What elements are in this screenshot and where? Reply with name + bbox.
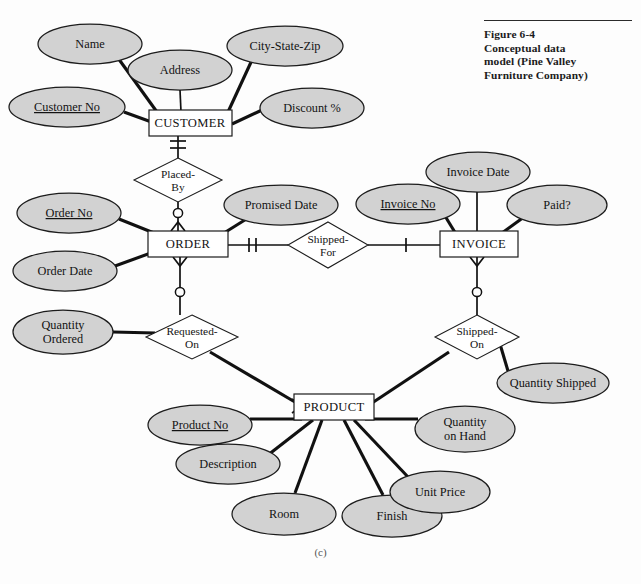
entity-product[interactable]: PRODUCT [294,394,374,420]
caption-line-3: Furniture Company) [484,69,632,83]
attribute-label: Name [75,37,105,51]
attribute-label: Order Date [38,264,94,278]
link-description-product [268,420,313,455]
entity-label: CUSTOMER [154,116,225,130]
cardinality-optional-circle [173,208,182,217]
attribute-node-name[interactable]: Name [38,24,142,64]
relationship-diamond [146,315,238,359]
attribute-node-quantity-on-hand[interactable]: Quantity on Hand [415,406,515,452]
attribute-node-promised-date[interactable]: Promised Date [224,185,338,225]
entity-order[interactable]: ORDER [148,231,228,257]
attribute-label-line2: on Hand [444,429,486,443]
attribute-node-quantity-ordered[interactable]: Quantity Ordered [13,310,113,354]
figure-number: Figure 6-4 [484,28,632,42]
attribute-label-line2: Ordered [43,332,83,346]
attribute-node-city-state-zip[interactable]: City-State-Zip [227,26,343,66]
caption-text: Figure 6-4 Conceptual data model (Pine V… [484,28,632,82]
attribute-node-unit-price[interactable]: Unit Price [390,471,490,513]
attribute-label-key: Invoice No [381,197,436,211]
caption-line-1: Conceptual data [484,42,632,56]
link-discount-customer [232,110,262,124]
relationship-diamond [134,158,222,202]
link-quantityordered-requestedon [113,332,155,333]
attribute-node-discount-percent[interactable]: Discount % [260,88,364,128]
subfigure-label: (c) [0,546,641,558]
entity-label: PRODUCT [303,400,364,414]
relationship-label-line2: By [171,181,185,193]
relationship-label-line1: Placed- [161,168,195,180]
attribute-label: Discount % [283,101,341,115]
link-address-customer [180,90,181,112]
attribute-node-customer-no[interactable]: Customer No [9,87,125,127]
attribute-node-order-no[interactable]: Order No [17,193,121,233]
attribute-node-invoice-date[interactable]: Invoice Date [426,152,530,192]
cardinality-optional-circle [175,287,184,296]
relationship-label-line1: Requested- [166,325,217,337]
relationship-placed-by[interactable]: Placed- By [134,158,222,202]
attribute-node-address[interactable]: Address [128,50,232,90]
relationship-label-line1: Shipped- [456,325,497,337]
attribute-label: Finish [377,509,408,523]
entity-invoice[interactable]: INVOICE [440,231,518,257]
relationship-label-line2: On [185,338,199,350]
entity-label: ORDER [166,237,211,251]
attribute-node-description[interactable]: Description [176,444,280,484]
attribute-label: Paid? [543,198,570,212]
relationship-shipped-for[interactable]: Shipped- For [288,222,368,268]
relationship-label-line1: Shipped- [307,233,348,245]
cardinality-optional-circle [472,287,481,296]
caption-rule [484,20,632,21]
attribute-node-product-no[interactable]: Product No [148,405,252,445]
line-shippedon-product [369,352,449,405]
attribute-node-paid[interactable]: Paid? [507,185,607,225]
attribute-label-line1: Quantity [41,318,85,332]
figure-caption: Figure 6-4 Conceptual data model (Pine V… [484,20,632,82]
line-requestedon-product [210,352,300,405]
attribute-label-line1: Quantity [443,415,487,429]
attribute-node-quantity-shipped[interactable]: Quantity Shipped [497,363,609,403]
relationship-label-line2: On [470,338,484,350]
relationship-label-line2: For [320,246,336,258]
attribute-label: Address [160,63,201,77]
link-quantityshipped-shippedon [500,344,508,371]
attribute-label: Unit Price [415,485,466,499]
link-unitprice-product [354,420,409,478]
entity-customer[interactable]: CUSTOMER [149,110,232,136]
attribute-label: City-State-Zip [249,39,320,53]
attribute-label-key: Order No [46,206,93,220]
er-diagram-canvas: Name Address City-State-Zip Customer No … [0,0,641,584]
attribute-node-invoice-no[interactable]: Invoice No [356,184,460,224]
attribute-node-room[interactable]: Room [232,493,336,535]
attribute-node-order-date[interactable]: Order Date [13,251,117,291]
attribute-label-key: Product No [172,418,228,432]
attribute-label: Room [269,507,299,521]
relationship-requested-on[interactable]: Requested- On [146,315,238,359]
diagram-page: Name Address City-State-Zip Customer No … [0,0,641,584]
attribute-label: Invoice Date [446,165,510,179]
attribute-label: Description [199,457,256,471]
entity-label: INVOICE [452,237,506,251]
attribute-label-key: Customer No [34,100,100,114]
relationship-diamond [288,222,368,268]
attribute-label: Quantity Shipped [510,376,596,390]
caption-line-2: model (Pine Valley [484,55,632,69]
attribute-label: Promised Date [245,198,318,212]
